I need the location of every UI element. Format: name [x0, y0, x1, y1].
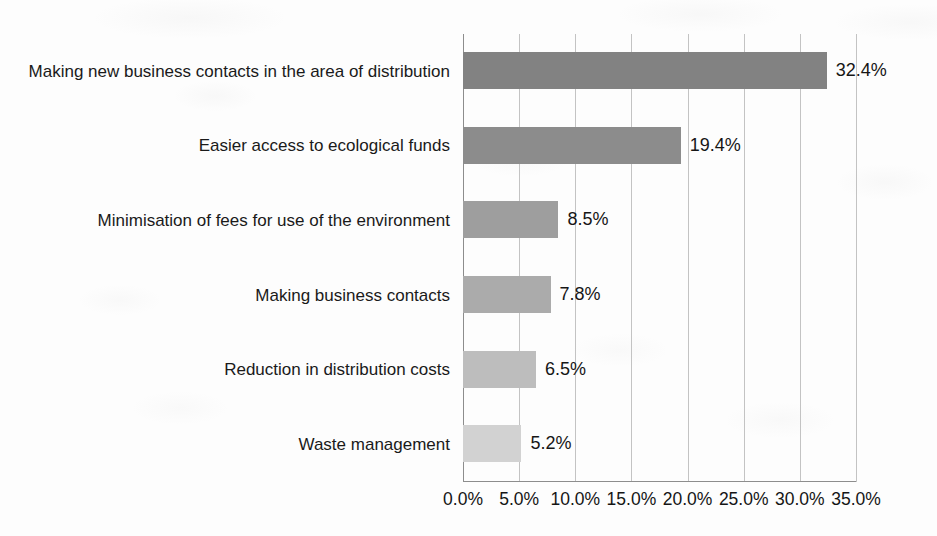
bar-band: 5.2% [463, 407, 856, 482]
category-label: Easier access to ecological funds [199, 134, 450, 157]
category-label-row: Minimisation of fees for use of the envi… [10, 183, 450, 258]
bar[interactable] [463, 52, 827, 89]
x-tick-label: 5.0% [499, 489, 539, 510]
plot-area: 32.4%19.4%8.5%7.8%6.5%5.2% [463, 34, 856, 482]
bar-value-label: 8.5% [558, 201, 608, 238]
x-tick-label: 25.0% [719, 489, 769, 510]
bar[interactable] [463, 127, 681, 164]
bar[interactable] [463, 351, 536, 388]
bar-band: 6.5% [463, 333, 856, 408]
bar[interactable] [463, 276, 551, 313]
category-label: Making new business contacts in the area… [29, 60, 450, 83]
category-label-row: Reduction in distribution costs [10, 332, 450, 407]
bar-value-label: 6.5% [536, 351, 586, 388]
bar-value-label: 5.2% [521, 425, 571, 462]
bar-band: 8.5% [463, 183, 856, 258]
bar-band: 32.4% [463, 34, 856, 109]
x-tick-label: 35.0% [831, 489, 881, 510]
bar[interactable] [463, 425, 521, 462]
x-tick-label: 0.0% [443, 489, 483, 510]
x-tick-label: 20.0% [663, 489, 713, 510]
category-label: Making business contacts [255, 284, 450, 307]
category-label: Minimisation of fees for use of the envi… [98, 209, 450, 232]
x-tick-label: 10.0% [550, 489, 600, 510]
bar-band: 19.4% [463, 109, 856, 184]
x-tick-label: 15.0% [607, 489, 657, 510]
category-label-row: Waste management [10, 407, 450, 482]
bar-value-label: 19.4% [681, 127, 741, 164]
bar-band: 7.8% [463, 258, 856, 333]
category-axis-labels: Making new business contacts in the area… [10, 34, 450, 482]
bar[interactable] [463, 201, 558, 238]
bar-value-label: 7.8% [551, 276, 601, 313]
bar-value-label: 32.4% [827, 52, 887, 89]
category-label-row: Easier access to ecological funds [10, 109, 450, 184]
bar-chart: Making new business contacts in the area… [0, 0, 937, 536]
category-label-row: Making business contacts [10, 258, 450, 333]
category-label: Reduction in distribution costs [224, 358, 450, 381]
category-label: Waste management [299, 433, 451, 456]
gridline [856, 34, 857, 482]
x-tick-label: 30.0% [775, 489, 825, 510]
category-label-row: Making new business contacts in the area… [10, 34, 450, 109]
